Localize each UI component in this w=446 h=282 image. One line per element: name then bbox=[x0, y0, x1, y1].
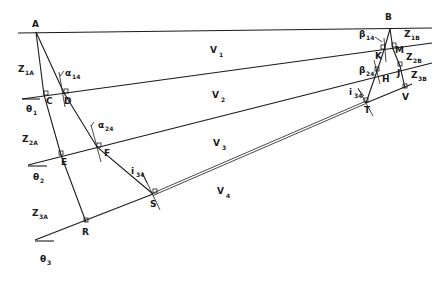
alpha14-tick bbox=[60, 71, 64, 76]
svg-text:V: V bbox=[217, 186, 224, 196]
svg-text:Z: Z bbox=[18, 64, 25, 74]
label-a: A bbox=[32, 19, 39, 29]
label-z3a: Z 3A bbox=[32, 208, 48, 220]
ray-s-t-lower bbox=[153, 104, 366, 196]
svg-text:β: β bbox=[359, 29, 366, 39]
label-h: H bbox=[382, 74, 390, 84]
label-b: B bbox=[385, 12, 392, 22]
svg-text:Z: Z bbox=[32, 208, 39, 218]
label-theta1: θ 1 bbox=[26, 104, 37, 116]
svg-text:3: 3 bbox=[222, 144, 226, 151]
label-beta24: β 24 bbox=[359, 65, 374, 77]
label-v: V bbox=[402, 92, 409, 102]
svg-text:Z: Z bbox=[411, 70, 418, 80]
svg-text:14: 14 bbox=[366, 34, 374, 41]
svg-text:α: α bbox=[98, 120, 104, 130]
svg-text:β: β bbox=[359, 65, 366, 75]
label-v3: V 3 bbox=[213, 138, 226, 151]
svg-text:3: 3 bbox=[47, 259, 51, 266]
label-beta14: β 14 bbox=[359, 29, 374, 41]
interface-3 bbox=[28, 63, 432, 165]
label-alpha14: α 14 bbox=[65, 68, 80, 80]
label-k: K bbox=[375, 51, 383, 61]
svg-text:Z: Z bbox=[406, 52, 413, 62]
svg-text:θ: θ bbox=[40, 254, 46, 264]
alpha24-tick bbox=[91, 122, 94, 126]
label-c: C bbox=[46, 96, 53, 106]
svg-text:2B: 2B bbox=[413, 57, 422, 64]
svg-text:Z: Z bbox=[404, 29, 411, 39]
svg-text:1: 1 bbox=[219, 51, 223, 58]
label-v4: V 4 bbox=[217, 186, 230, 199]
label-z2b: Z 2B bbox=[406, 52, 422, 64]
svg-text:α: α bbox=[65, 68, 71, 78]
svg-text:θ: θ bbox=[26, 104, 32, 114]
label-v2: V 2 bbox=[212, 90, 225, 103]
svg-text:2A: 2A bbox=[29, 139, 38, 146]
svg-text:Z: Z bbox=[22, 134, 29, 144]
svg-text:2: 2 bbox=[221, 96, 225, 103]
svg-text:i: i bbox=[131, 166, 134, 176]
label-z1b: Z 1B bbox=[404, 29, 420, 41]
interface-1 bbox=[18, 28, 432, 33]
label-v1: V 1 bbox=[210, 45, 223, 58]
right-angle-c bbox=[44, 91, 48, 95]
normal-f bbox=[91, 125, 101, 162]
normal-path-a bbox=[36, 32, 86, 222]
svg-text:3A: 3A bbox=[39, 213, 48, 220]
interface-4-left bbox=[35, 194, 153, 240]
svg-text:24: 24 bbox=[105, 125, 113, 132]
label-i34-left: i 34 bbox=[131, 166, 144, 178]
svg-text:1A: 1A bbox=[25, 69, 34, 76]
svg-text:θ: θ bbox=[33, 172, 39, 182]
label-s: S bbox=[150, 199, 156, 209]
label-m: M bbox=[395, 45, 404, 55]
label-z3b: Z 3B bbox=[411, 70, 427, 82]
label-t: T bbox=[364, 105, 371, 115]
label-i34-right: i 34 bbox=[349, 87, 362, 99]
ray-s-t-upper bbox=[153, 101, 366, 193]
normal-path-b bbox=[390, 29, 405, 88]
svg-text:34: 34 bbox=[354, 92, 362, 99]
label-theta2: θ 2 bbox=[33, 172, 44, 184]
svg-text:4: 4 bbox=[226, 192, 230, 199]
svg-text:2: 2 bbox=[40, 177, 44, 184]
label-e: E bbox=[61, 157, 67, 167]
label-d: D bbox=[64, 96, 71, 106]
svg-text:1: 1 bbox=[33, 109, 37, 116]
label-f: F bbox=[104, 148, 110, 158]
svg-text:V: V bbox=[213, 138, 220, 148]
svg-text:14: 14 bbox=[72, 73, 80, 80]
beta14-arrow bbox=[375, 37, 382, 42]
svg-text:1B: 1B bbox=[411, 34, 420, 41]
label-z2a: Z 2A bbox=[22, 134, 38, 146]
svg-text:34: 34 bbox=[136, 171, 144, 178]
refraction-layer-diagram: A B C D E F R S K M H J T V V 1 V 2 V 3 … bbox=[0, 0, 446, 282]
label-theta3: θ 3 bbox=[40, 254, 51, 266]
label-alpha24: α 24 bbox=[98, 120, 113, 132]
svg-text:V: V bbox=[210, 45, 217, 55]
label-z1a: Z 1A bbox=[18, 64, 34, 76]
label-r: R bbox=[82, 227, 89, 237]
svg-text:i: i bbox=[349, 87, 352, 97]
label-j: J bbox=[396, 68, 400, 78]
svg-text:24: 24 bbox=[366, 70, 374, 77]
svg-text:V: V bbox=[212, 90, 219, 100]
svg-text:3B: 3B bbox=[418, 75, 427, 82]
ray-path-a bbox=[36, 32, 153, 194]
